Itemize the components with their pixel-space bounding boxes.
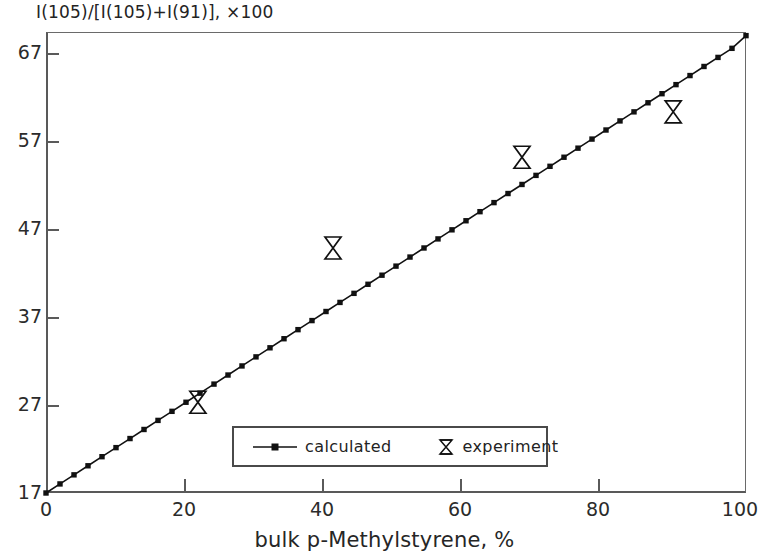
y-tick-mark (46, 317, 59, 319)
legend-item-calculated: calculated (252, 428, 392, 465)
y-tick-mark (46, 229, 59, 231)
y-tick-label: 27 (2, 393, 42, 415)
x-tick-mark (322, 479, 324, 493)
chart-figure: I(105)/[I(105)+I(91)], ×100 67 57 47 37 … (0, 0, 769, 559)
legend-label-experiment: experiment (463, 437, 559, 456)
y-tick-label: 57 (2, 129, 42, 151)
y-tick-label: 37 (2, 305, 42, 327)
legend: calculated experiment (232, 426, 548, 467)
y-tick-label: 47 (2, 217, 42, 239)
plot-frame (46, 32, 746, 493)
bowtie-marker-icon (436, 437, 456, 457)
y-tick-label: 67 (2, 41, 42, 63)
x-tick-label: 60 (425, 498, 495, 520)
x-tick-label: 100 (705, 498, 769, 520)
legend-label-calculated: calculated (305, 437, 392, 456)
x-tick-mark (598, 479, 600, 493)
y-tick-mark (46, 405, 59, 407)
x-tick-label: 80 (563, 498, 633, 520)
legend-item-experiment: experiment (436, 428, 559, 465)
y-tick-mark (46, 141, 59, 143)
x-tick-label: 40 (287, 498, 357, 520)
x-tick-mark (460, 479, 462, 493)
x-axis-title: bulk p-Methylstyrene, % (0, 528, 769, 552)
x-tick-label: 0 (11, 498, 81, 520)
y-axis-title: I(105)/[I(105)+I(91)], ×100 (36, 2, 274, 22)
line-dot-marker-icon (252, 439, 298, 455)
x-tick-label: 20 (149, 498, 219, 520)
y-tick-mark (46, 53, 59, 55)
x-tick-mark (184, 479, 186, 493)
